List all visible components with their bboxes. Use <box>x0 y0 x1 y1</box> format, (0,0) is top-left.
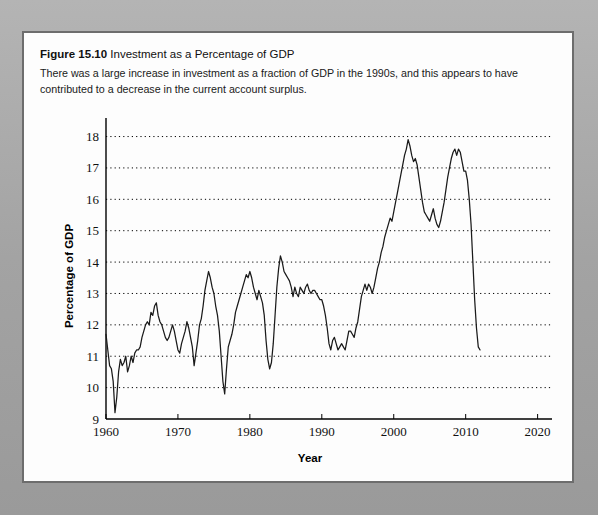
x-axis-title: Year <box>298 452 323 464</box>
x-tick-label: 2020 <box>525 424 551 439</box>
y-tick-label: 15 <box>86 223 99 238</box>
chart-plot-area: 9101112131415161718 19601970198019902000… <box>60 106 560 471</box>
figure-panel: Figure 15.10 Investment as a Percentage … <box>22 31 574 483</box>
investment-gdp-line-chart: 9101112131415161718 19601970198019902000… <box>60 106 560 471</box>
x-tick-label: 1980 <box>237 424 263 439</box>
gridlines <box>106 137 552 388</box>
caption-block: Figure 15.10 Investment as a Percentage … <box>40 47 560 97</box>
y-tick-label: 16 <box>86 192 100 207</box>
y-tick-label: 13 <box>86 286 99 301</box>
figure-caption: There was a large increase in investment… <box>40 66 560 97</box>
figure-name: Investment as a Percentage of GDP <box>110 48 294 60</box>
x-tick-label: 2010 <box>453 424 479 439</box>
y-tick-label: 12 <box>86 317 99 332</box>
x-axis-ticks: 1960197019801990200020102020 <box>93 414 551 439</box>
x-tick-label: 1960 <box>93 424 119 439</box>
y-tick-label: 11 <box>86 349 99 364</box>
y-axis-ticks: 9101112131415161718 <box>86 129 100 426</box>
y-tick-label: 18 <box>86 129 99 144</box>
y-axis-title: Percentage of GDP <box>63 224 75 328</box>
y-tick-label: 17 <box>86 160 100 175</box>
x-tick-label: 2000 <box>381 424 407 439</box>
figure-root: Figure 15.10 Investment as a Percentage … <box>0 0 598 515</box>
data-series-line <box>106 140 480 413</box>
x-tick-label: 1990 <box>309 424 335 439</box>
y-tick-label: 14 <box>86 255 100 270</box>
figure-title: Figure 15.10 Investment as a Percentage … <box>40 47 560 62</box>
y-tick-label: 10 <box>86 380 99 395</box>
figure-label: Figure 15.10 <box>40 48 107 60</box>
x-tick-label: 1970 <box>165 424 191 439</box>
